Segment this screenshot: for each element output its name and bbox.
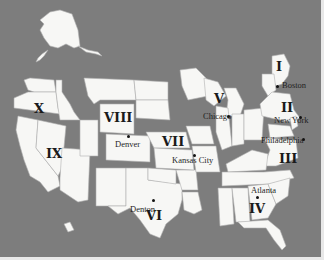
region-label-iii: III	[279, 152, 297, 165]
city-label-denton: Denton	[130, 205, 155, 214]
city-label-chicago: Chicago	[203, 112, 231, 121]
city-label-philadelphia: Philadelphia	[261, 136, 304, 145]
region-vii-shape	[146, 126, 220, 172]
city-label-atlanta: Atlanta	[251, 186, 276, 195]
region-label-ix: IX	[46, 147, 62, 160]
atlanta-marker	[256, 196, 259, 199]
region-label-vii: VII	[162, 135, 184, 148]
region-label-i: I	[276, 60, 282, 73]
region-ix-shape	[16, 116, 90, 232]
city-label-denver: Denver	[115, 140, 140, 149]
region-label-viii: VIII	[104, 111, 132, 124]
city-label-boston: Boston	[282, 81, 306, 90]
region-x-shape	[14, 78, 80, 120]
region-vi-shape	[96, 168, 202, 238]
denton-marker	[152, 199, 155, 202]
federal-regions-map: I II III IV V VI VII VIII IX X Boston Ne…	[0, 0, 324, 260]
city-label-kansas-city: Kansas City	[172, 156, 213, 165]
city-label-new-york: New York	[274, 116, 308, 125]
boston-marker	[276, 85, 279, 88]
region-label-ii: II	[281, 101, 293, 114]
region-label-iv: IV	[249, 202, 265, 215]
denver-marker	[127, 135, 130, 138]
alaska-shape	[36, 10, 102, 62]
region-label-v: V	[214, 92, 224, 105]
region-label-x: X	[34, 102, 44, 115]
